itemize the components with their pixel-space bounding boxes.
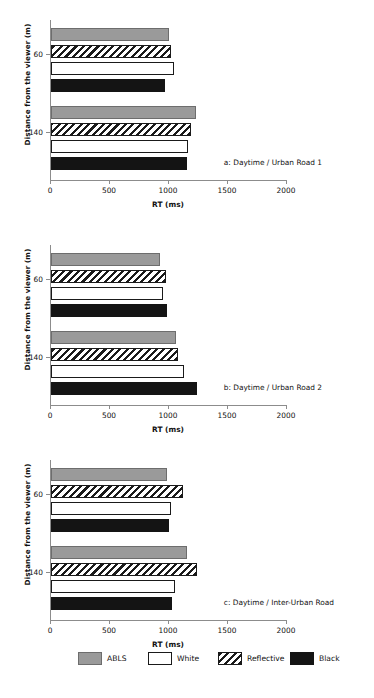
bar-black-60m xyxy=(51,304,167,317)
bar-reflective-140m xyxy=(51,123,191,136)
x-axis-tick-label: 2000 xyxy=(277,626,296,635)
legend-swatch-abls xyxy=(78,652,102,665)
x-axis-tick-label: 1000 xyxy=(159,411,178,420)
x-axis-tick xyxy=(286,405,287,409)
bar-white-140m xyxy=(51,365,184,378)
legend-label: White xyxy=(177,654,199,663)
x-axis-tick-label: 500 xyxy=(102,411,116,420)
x-axis-tick xyxy=(227,620,228,624)
plot-area: 050010001500200060140RT (ms)c: Daytime /… xyxy=(50,460,340,620)
x-axis-tick-label: 0 xyxy=(48,626,53,635)
figure-bar-charts: Distance from the viewer (m)050010001500… xyxy=(0,0,374,698)
x-axis-tick-label: 1500 xyxy=(218,626,237,635)
x-axis-tick xyxy=(50,620,51,624)
x-axis-tick-label: 0 xyxy=(48,411,53,420)
legend-label: Black xyxy=(319,654,340,663)
legend-label: Reflective xyxy=(247,654,285,663)
x-axis-tick-label: 1000 xyxy=(159,626,178,635)
bar-reflective-60m xyxy=(51,45,171,58)
x-axis-title: RT (ms) xyxy=(50,200,286,209)
y-axis-tick xyxy=(46,494,50,495)
bar-abls-140m xyxy=(51,546,187,559)
bar-abls-60m xyxy=(51,468,167,481)
y-axis-tick-label: 140 xyxy=(29,128,43,137)
x-axis-tick xyxy=(109,180,110,184)
legend-item-reflective: Reflective xyxy=(218,652,285,665)
x-axis-tick-label: 1000 xyxy=(159,186,178,195)
bar-white-60m xyxy=(51,62,174,75)
y-axis-tick xyxy=(46,54,50,55)
bar-reflective-60m xyxy=(51,270,166,283)
x-axis-tick xyxy=(286,180,287,184)
legend-label: ABLS xyxy=(107,654,126,663)
legend-swatch-reflective xyxy=(218,652,242,665)
x-axis-tick-label: 2000 xyxy=(277,411,296,420)
x-axis-tick xyxy=(168,405,169,409)
y-axis-line xyxy=(50,245,51,405)
bar-abls-60m xyxy=(51,28,169,41)
x-axis-title: RT (ms) xyxy=(50,640,286,649)
bar-white-140m xyxy=(51,580,175,593)
panel-caption: b: Daytime / Urban Road 2 xyxy=(224,383,322,392)
x-axis-tick xyxy=(109,405,110,409)
bar-white-140m xyxy=(51,140,188,153)
chart-panel: Distance from the viewer (m)050010001500… xyxy=(0,8,374,216)
legend-item-white: White xyxy=(148,652,199,665)
y-axis-tick-label: 60 xyxy=(34,275,43,284)
chart-legend: ABLSWhiteReflectiveBlack xyxy=(0,652,374,682)
legend-item-black: Black xyxy=(290,652,340,665)
y-axis-tick xyxy=(46,572,50,573)
x-axis-tick xyxy=(286,620,287,624)
bar-black-140m xyxy=(51,157,187,170)
y-axis-tick xyxy=(46,132,50,133)
x-axis-tick xyxy=(168,180,169,184)
y-axis-tick-label: 60 xyxy=(34,490,43,499)
bar-black-140m xyxy=(51,382,197,395)
x-axis-tick-label: 500 xyxy=(102,186,116,195)
legend-swatch-black xyxy=(290,652,314,665)
y-axis-line xyxy=(50,20,51,180)
x-axis-tick-label: 500 xyxy=(102,626,116,635)
y-axis-line xyxy=(50,460,51,620)
x-axis-tick xyxy=(109,620,110,624)
bar-reflective-140m xyxy=(51,563,197,576)
panel-caption: a: Daytime / Urban Road 1 xyxy=(224,158,322,167)
y-axis-tick xyxy=(46,357,50,358)
bar-white-60m xyxy=(51,502,171,515)
chart-panel: Distance from the viewer (m)050010001500… xyxy=(0,448,374,656)
x-axis-tick xyxy=(227,180,228,184)
x-axis-tick-label: 2000 xyxy=(277,186,296,195)
y-axis-tick xyxy=(46,279,50,280)
bar-abls-60m xyxy=(51,253,160,266)
plot-area: 050010001500200060140RT (ms)b: Daytime /… xyxy=(50,245,340,405)
y-axis-tick-label: 60 xyxy=(34,50,43,59)
panel-caption: c: Daytime / Inter-Urban Road xyxy=(224,598,334,607)
bar-white-60m xyxy=(51,287,163,300)
bar-abls-140m xyxy=(51,106,196,119)
x-axis-title: RT (ms) xyxy=(50,425,286,434)
x-axis-tick xyxy=(168,620,169,624)
x-axis-tick-label: 1500 xyxy=(218,411,237,420)
bar-abls-140m xyxy=(51,331,176,344)
x-axis-tick xyxy=(227,405,228,409)
plot-area: 050010001500200060140RT (ms)a: Daytime /… xyxy=(50,20,340,180)
x-axis-tick-label: 1500 xyxy=(218,186,237,195)
bar-reflective-60m xyxy=(51,485,183,498)
bar-reflective-140m xyxy=(51,348,178,361)
bar-black-60m xyxy=(51,519,169,532)
y-axis-tick-label: 140 xyxy=(29,568,43,577)
chart-panel: Distance from the viewer (m)050010001500… xyxy=(0,233,374,441)
legend-item-abls: ABLS xyxy=(78,652,126,665)
x-axis-tick-label: 0 xyxy=(48,186,53,195)
x-axis-tick xyxy=(50,180,51,184)
legend-swatch-white xyxy=(148,652,172,665)
bar-black-60m xyxy=(51,79,165,92)
bar-black-140m xyxy=(51,597,172,610)
y-axis-tick-label: 140 xyxy=(29,353,43,362)
x-axis-tick xyxy=(50,405,51,409)
